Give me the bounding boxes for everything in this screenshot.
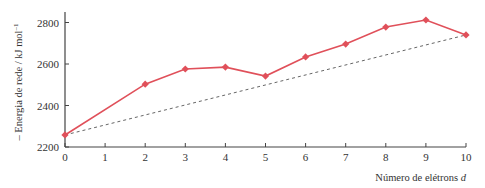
y-tick-label: 2200 [37,141,60,153]
x-tick-label: 1 [102,151,108,163]
x-tick-label: 9 [423,151,429,163]
data-point-marker [462,31,469,38]
x-tick-label: 2 [142,151,148,163]
y-axis-label: – Energia de rede / kJ mol–1 [12,23,24,142]
series [61,16,469,138]
data-point-marker [422,16,429,23]
data-point-marker [382,23,389,30]
lattice-energy-chart: 0123456789102200240026002800 Número de e… [0,0,485,188]
y-tick-label: 2600 [37,58,60,70]
data-point-marker [182,65,189,72]
x-tick-label: 10 [461,151,473,163]
data-point-marker [262,72,269,79]
x-tick-label: 7 [343,151,349,163]
x-tick-label: 0 [62,151,68,163]
data-point-marker [302,53,309,60]
data-point-marker [222,64,229,71]
y-tick-label: 2800 [37,17,60,29]
data-point-marker [342,40,349,47]
x-axis-label: Número de elétrons d [375,172,466,183]
x-tick-label: 8 [383,151,389,163]
ticks: 0123456789102200240026002800 [37,17,472,164]
reference-dashed-line [65,35,466,135]
x-tick-label: 5 [263,151,269,163]
x-tick-label: 6 [303,151,309,163]
x-tick-label: 3 [183,151,189,163]
y-tick-label: 2400 [37,100,60,112]
x-tick-label: 4 [223,151,229,163]
